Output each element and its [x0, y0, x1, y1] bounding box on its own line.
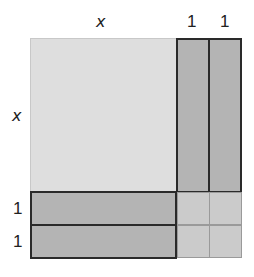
x-bar-horizontal-1: [30, 191, 177, 226]
top-label-x: x: [96, 14, 105, 30]
top-label-1b: 1: [220, 13, 229, 30]
left-label-1b: 1: [13, 233, 22, 250]
unit-square-2: [209, 192, 242, 225]
unit-square-3: [177, 225, 210, 258]
x-bar-vertical-2: [208, 38, 242, 193]
left-label-x: x: [12, 108, 21, 124]
unit-square-4: [209, 225, 242, 258]
unit-square-1: [177, 192, 210, 225]
top-label-1a: 1: [187, 13, 196, 30]
x-bar-horizontal-2: [30, 224, 177, 259]
left-label-1a: 1: [13, 200, 22, 217]
x-squared-tile: [30, 38, 177, 192]
x-bar-vertical-1: [176, 38, 210, 193]
